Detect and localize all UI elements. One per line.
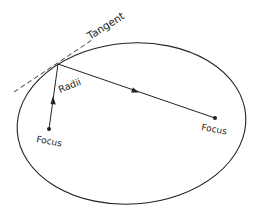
tangent-label: Tangent	[84, 9, 127, 42]
ellipse-diagram: Tangent Radii Focus Focus	[0, 0, 256, 211]
focus-right-label: Focus	[201, 122, 228, 136]
ellipse	[12, 35, 252, 211]
focus-left-dot	[47, 127, 51, 131]
diagram-canvas: Tangent Radii Focus Focus	[0, 0, 256, 211]
radii-label: Radii	[57, 76, 83, 95]
arrow-up-icon	[51, 96, 56, 105]
radius-left	[49, 64, 58, 129]
focus-left-label: Focus	[36, 134, 63, 148]
focus-right-dot	[213, 116, 217, 120]
arrow-right-icon	[131, 88, 139, 93]
